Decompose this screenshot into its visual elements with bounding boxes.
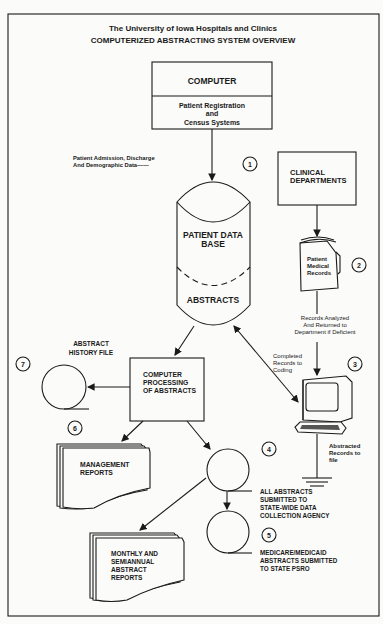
patient-data-base-cylinder: PATIENT DATA BASE ABSTRACTS bbox=[177, 182, 250, 325]
abstracts-label: ABSTRACTS bbox=[187, 295, 240, 305]
svg-text:ALL ABSTRACTS: ALL ABSTRACTS bbox=[260, 488, 312, 495]
computer-box: COMPUTER Patient Registration and Census… bbox=[152, 62, 272, 129]
title-line-2: COMPUTERIZED ABSTRACTING SYSTEM OVERVIEW bbox=[91, 36, 296, 45]
state-psro-circle bbox=[207, 511, 252, 553]
svg-text:5: 5 bbox=[267, 532, 271, 539]
svg-text:file: file bbox=[329, 457, 338, 463]
svg-text:Records to: Records to bbox=[273, 360, 303, 366]
completed-records-label: Completed Records to Coding bbox=[273, 353, 303, 373]
step-badge-3: 3 bbox=[348, 357, 362, 371]
abstract-history-file-tape bbox=[42, 365, 89, 409]
computer-processing-box: COMPUTER PROCESSING OF ABSTRACTS bbox=[130, 358, 204, 421]
management-reports-document: MANAGEMENT REPORTS bbox=[57, 444, 150, 509]
svg-text:Coding: Coding bbox=[273, 367, 292, 373]
admission-data-label: Patient Admission, Discharge And Demogra… bbox=[73, 155, 155, 168]
diagram-title: The University of Iowa Hospitals and Cli… bbox=[91, 24, 296, 45]
svg-text:MONTHLY AND: MONTHLY AND bbox=[111, 550, 158, 557]
svg-text:SUBMITTED TO: SUBMITTED TO bbox=[260, 496, 307, 503]
svg-text:Records: Records bbox=[307, 270, 332, 276]
state-agency-circle bbox=[207, 449, 252, 491]
svg-text:MEDICARE/MEDICAID: MEDICARE/MEDICAID bbox=[260, 549, 327, 556]
svg-text:Records Analyzed: Records Analyzed bbox=[301, 315, 349, 321]
svg-text:MANAGEMENT: MANAGEMENT bbox=[80, 461, 130, 468]
svg-text:DEPARTMENTS: DEPARTMENTS bbox=[290, 176, 347, 185]
svg-text:Records to: Records to bbox=[329, 450, 361, 456]
svg-text:PROCESSING: PROCESSING bbox=[143, 379, 188, 386]
svg-text:1: 1 bbox=[248, 161, 252, 168]
svg-text:3: 3 bbox=[353, 361, 357, 368]
step-badge-7: 7 bbox=[16, 357, 30, 371]
svg-text:OF ABSTRACTS: OF ABSTRACTS bbox=[143, 387, 196, 394]
svg-text:ABSTRACT: ABSTRACT bbox=[73, 340, 109, 347]
clinical-departments-box: CLINICAL DEPARTMENTS bbox=[278, 152, 356, 205]
svg-text:7: 7 bbox=[21, 361, 25, 368]
arrow-processing-to-management bbox=[122, 421, 143, 441]
computer-terminal-icon bbox=[295, 376, 352, 434]
monthly-semiannual-reports-document: MONTHLY AND SEMIANNUAL ABSTRACT REPORTS bbox=[90, 533, 184, 602]
computer-header: COMPUTER bbox=[188, 76, 237, 86]
svg-text:REPORTS: REPORTS bbox=[111, 574, 143, 581]
title-line-1: The University of Iowa Hospitals and Cli… bbox=[109, 24, 278, 33]
svg-text:HISTORY FILE: HISTORY FILE bbox=[69, 349, 114, 356]
svg-text:ABSTRACT: ABSTRACT bbox=[111, 566, 147, 573]
abstracted-records-label: Abstracted Records to file bbox=[329, 443, 361, 463]
svg-text:6: 6 bbox=[73, 425, 77, 432]
svg-text:COLLECTION AGENCY: COLLECTION AGENCY bbox=[260, 512, 330, 519]
svg-text:And Demographic Data——: And Demographic Data—— bbox=[73, 162, 149, 168]
patient-medical-records-book: Patient Medical Records bbox=[300, 237, 340, 291]
step-badge-4: 4 bbox=[262, 442, 276, 456]
computer-sub-3: Census Systems bbox=[184, 119, 240, 127]
history-file-label: ABSTRACT HISTORY FILE bbox=[69, 340, 114, 356]
svg-text:STATE-WIDE DATA: STATE-WIDE DATA bbox=[260, 504, 317, 511]
step-badge-1: 1 bbox=[243, 157, 257, 171]
svg-text:ABSTRACTS SUBMITTED: ABSTRACTS SUBMITTED bbox=[260, 557, 338, 564]
system-overview-diagram: The University of Iowa Hospitals and Cli… bbox=[0, 0, 383, 624]
state-agency-label: ALL ABSTRACTS SUBMITTED TO STATE-WIDE DA… bbox=[260, 488, 330, 519]
svg-text:Patient Admission, Discharge: Patient Admission, Discharge bbox=[73, 155, 155, 161]
svg-text:COMPUTER: COMPUTER bbox=[143, 371, 182, 378]
svg-text:Abstracted: Abstracted bbox=[329, 443, 361, 449]
arrow-processing-to-circle-4 bbox=[187, 421, 210, 449]
svg-text:Department if Deficient: Department if Deficient bbox=[294, 329, 355, 335]
database-label-2: BASE bbox=[201, 239, 225, 249]
step-badge-5: 5 bbox=[262, 528, 276, 542]
step-badge-6: 6 bbox=[68, 421, 82, 435]
svg-text:TO STATE PSRO: TO STATE PSRO bbox=[260, 565, 310, 572]
step-badge-2: 2 bbox=[352, 258, 366, 272]
svg-text:SEMIANNUAL: SEMIANNUAL bbox=[111, 558, 154, 565]
svg-text:REPORTS: REPORTS bbox=[80, 469, 113, 476]
computer-sub-1: Patient Registration bbox=[179, 102, 245, 110]
records-analyzed-label: Records Analyzed And Returned to Departm… bbox=[278, 314, 374, 342]
svg-text:And Returned to: And Returned to bbox=[303, 322, 347, 328]
svg-text:Patient: Patient bbox=[307, 256, 327, 262]
ground-file-symbol bbox=[302, 478, 332, 486]
svg-text:Completed: Completed bbox=[273, 353, 302, 359]
state-psro-label: MEDICARE/MEDICAID ABSTRACTS SUBMITTED TO… bbox=[260, 549, 338, 572]
computer-sub-2: and bbox=[206, 110, 218, 117]
svg-text:Medical: Medical bbox=[307, 263, 329, 269]
svg-text:2: 2 bbox=[357, 262, 361, 269]
arrow-database-to-processing bbox=[175, 326, 194, 355]
svg-text:4: 4 bbox=[267, 446, 271, 453]
